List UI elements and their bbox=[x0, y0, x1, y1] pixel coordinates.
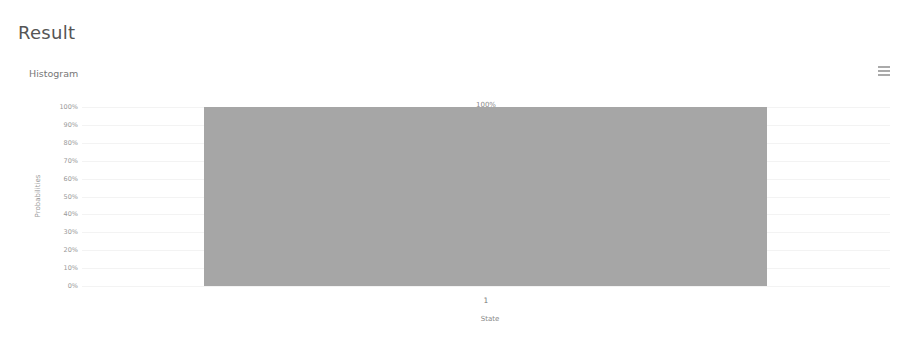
chart-title: Histogram bbox=[29, 68, 78, 79]
y-tick-label: 70% bbox=[64, 157, 78, 165]
histogram-bar[interactable] bbox=[204, 107, 767, 286]
y-tick-label: 40% bbox=[64, 210, 78, 218]
y-tick-label: 20% bbox=[64, 246, 78, 254]
y-tick-label: 90% bbox=[64, 121, 78, 129]
y-axis-label: Probabilities bbox=[34, 175, 42, 218]
y-tick-label: 0% bbox=[68, 282, 78, 290]
x-axis-label: State bbox=[481, 315, 500, 323]
y-tick-label: 80% bbox=[64, 139, 78, 147]
x-tick-label: 1 bbox=[484, 296, 489, 305]
page-title: Result bbox=[18, 22, 75, 43]
hamburger-menu-icon[interactable] bbox=[878, 66, 890, 76]
y-tick-label: 50% bbox=[64, 193, 78, 201]
gridline bbox=[82, 286, 890, 287]
y-tick-label: 100% bbox=[59, 103, 78, 111]
y-tick-label: 60% bbox=[64, 175, 78, 183]
bar-value-label: 100% bbox=[476, 101, 496, 109]
y-tick-label: 30% bbox=[64, 228, 78, 236]
y-tick-label: 10% bbox=[64, 264, 78, 272]
